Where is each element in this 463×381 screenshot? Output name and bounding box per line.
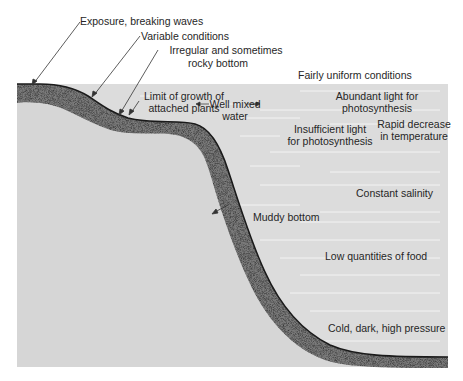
label-insufficient-light-1: Insufficient light	[280, 123, 380, 135]
label-well-mixed-2: water	[205, 110, 265, 122]
label-low-food: Low quantities of food	[325, 250, 427, 262]
label-rapid-decrease-1: Rapid decrease	[370, 118, 458, 130]
label-exposure: Exposure, breaking waves	[80, 15, 203, 27]
label-uniform-conditions: Fairly uniform conditions	[298, 69, 412, 81]
label-constant-salinity: Constant salinity	[356, 187, 433, 199]
label-variable-conditions: Variable conditions	[141, 30, 229, 42]
label-well-mixed-1: Well mixed	[205, 98, 265, 110]
label-cold-dark-pressure: Cold, dark, high pressure	[328, 322, 445, 334]
label-abundant-light-1: Abundant light for	[325, 90, 429, 102]
label-rapid-decrease-2: in temperature	[370, 130, 458, 142]
label-abundant-light-2: photosynthesis	[325, 102, 429, 114]
label-irregular-bottom-2: rocky bottom	[188, 57, 248, 69]
label-insufficient-light-2: for photosynthesis	[280, 135, 380, 147]
ocean-zone-diagram: Exposure, breaking waves Variable condit…	[0, 0, 463, 381]
label-muddy-bottom: Muddy bottom	[253, 211, 320, 223]
label-irregular-bottom-1: Irregular and sometimes	[156, 44, 296, 56]
